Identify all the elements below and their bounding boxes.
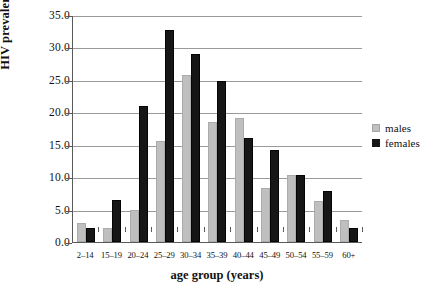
bar-group: [204, 16, 230, 242]
x-axis-tick-label: 55–59: [309, 250, 335, 260]
bar-group: [257, 16, 283, 242]
x-axis-tick-mark: [362, 227, 363, 232]
bar-females-45–49: [270, 150, 279, 242]
x-axis-tick-mark: [204, 227, 205, 232]
plot-area: [72, 16, 362, 243]
y-axis-tick-label: 20.0: [24, 107, 70, 119]
y-axis-tick-label: 10.0: [24, 172, 70, 184]
y-axis-tick-mark: [66, 243, 72, 244]
y-axis-tick-label: 35.0: [24, 10, 70, 22]
x-axis-tick-mark: [257, 227, 258, 232]
bar-females-40–44: [244, 138, 253, 242]
bar-group: [178, 16, 204, 242]
bar-group: [309, 16, 335, 242]
bar-group: [126, 16, 152, 242]
x-axis-tick-label: 45–49: [257, 250, 283, 260]
bar-females-2–14: [86, 228, 95, 242]
bar-females-25–29: [165, 30, 174, 242]
x-axis-tick-label: 30–34: [177, 250, 203, 260]
x-axis-tick-mark: [72, 227, 73, 232]
bar-females-15–19: [112, 200, 121, 242]
legend-label-males: males: [385, 122, 411, 134]
bar-males-40–44: [235, 118, 244, 242]
x-axis-tick-mark: [309, 227, 310, 232]
y-axis-tick-label: 30.0: [24, 42, 70, 54]
x-axis-tick-label: 2–14: [72, 250, 98, 260]
bar-group: [73, 16, 99, 242]
x-axis-tick-label: 35–39: [204, 250, 230, 260]
bar-males-50–54: [287, 175, 296, 242]
x-axis-tick-mark: [230, 227, 231, 232]
bar-group: [99, 16, 125, 242]
bar-males-20–24: [130, 210, 139, 242]
y-axis-tick-label: 5.0: [24, 205, 70, 217]
legend-label-females: females: [385, 137, 420, 149]
x-axis-tick-label: 15–19: [98, 250, 124, 260]
bar-females-35–39: [217, 81, 226, 242]
x-axis-tick-mark: [177, 227, 178, 232]
x-axis-title: age group (years): [72, 268, 362, 283]
legend-swatch-males-icon: [372, 124, 380, 132]
bar-females-20–24: [139, 106, 148, 242]
legend-swatch-females-icon: [372, 139, 380, 147]
x-axis-tick-mark: [283, 227, 284, 232]
x-axis-tick-label: 20–24: [125, 250, 151, 260]
bar-males-30–34: [182, 75, 191, 242]
bar-males-35–39: [208, 122, 217, 242]
x-axis-tick-label: 50–54: [283, 250, 309, 260]
bar-males-45–49: [261, 188, 270, 242]
bar-males-60+: [340, 220, 349, 242]
y-axis-title: HIV prevalence (%): [0, 0, 13, 95]
x-axis-tick-mark: [151, 227, 152, 232]
x-axis-tick-mark: [336, 227, 337, 232]
bar-females-55–59: [323, 191, 332, 242]
bar-group: [152, 16, 178, 242]
bar-females-60+: [349, 228, 358, 242]
bar-males-2–14: [77, 223, 86, 242]
bar-males-25–29: [156, 141, 165, 242]
x-axis-tick-labels: 2–1415–1920–2425–2930–3435–3940–4445–495…: [72, 250, 362, 260]
bar-groups: [73, 16, 362, 242]
y-axis-tick-label: 25.0: [24, 75, 70, 87]
legend-item-males: males: [372, 120, 420, 135]
bar-group: [231, 16, 257, 242]
bar-group: [283, 16, 309, 242]
x-axis-tick-label: 25–29: [151, 250, 177, 260]
bar-females-50–54: [296, 175, 305, 242]
bar-females-30–34: [191, 54, 200, 242]
chart-root: HIV prevalence (%) 0.05.010.015.020.025.…: [0, 0, 439, 299]
x-axis-tick-label: 40–44: [230, 250, 256, 260]
bar-males-15–19: [103, 228, 112, 242]
bar-males-55–59: [314, 201, 323, 243]
legend: males females: [372, 120, 420, 150]
bar-group: [336, 16, 362, 242]
legend-item-females: females: [372, 135, 420, 150]
x-axis-tick-label: 60+: [336, 250, 362, 260]
x-axis-tick-mark: [98, 227, 99, 232]
y-axis-tick-label: 15.0: [24, 140, 70, 152]
y-axis-tick-label: 0.0: [24, 237, 70, 249]
x-axis-tick-mark: [125, 227, 126, 232]
